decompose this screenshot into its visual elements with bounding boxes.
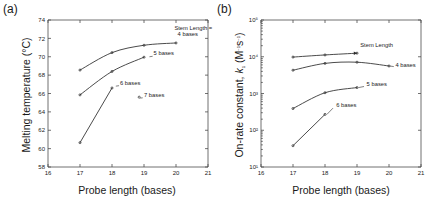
panel-a-y-axis-title: Melting temperature (°C) (20, 37, 32, 152)
y-tick-label: 72 (38, 36, 45, 42)
annotation-label: 7 bases (144, 92, 164, 98)
y-tick-label: 10³ (249, 91, 258, 97)
y-tick-label: 64 (38, 109, 45, 115)
annotation-label: 6 bases (336, 102, 356, 108)
panel-a-plot: 161718192021586062646668707274 Stem Leng… (0, 0, 215, 200)
leader-b-5-bases (359, 87, 364, 88)
annotation-label: 5 bases (154, 50, 174, 56)
series-curve-6-bases (80, 88, 112, 143)
annotation-label: 6 bases (120, 80, 140, 86)
panel-a-annotations: Stem Length =4 bases5 bases6 bases7 base… (116, 25, 213, 98)
plot-frame (261, 20, 421, 167)
x-tick-label: 19 (141, 170, 148, 176)
y-tick-label: 10⁵ (249, 17, 259, 23)
panel-b-annotations: Stem Length4 bases5 bases6 bases (327, 42, 416, 115)
series-curve-4-bases (80, 43, 176, 70)
x-tick-label: 19 (354, 170, 361, 176)
panel-a: (a) 161718192021586062646668707274 Stem … (0, 0, 215, 200)
x-tick-label: 17 (290, 170, 297, 176)
leader-b-6-bases (327, 108, 333, 114)
figure-root: (a) 161718192021586062646668707274 Stem … (0, 0, 429, 200)
x-tick-label: 20 (173, 170, 180, 176)
x-tick-label: 16 (258, 170, 265, 176)
y-tick-label: 68 (38, 72, 45, 78)
x-tick-label: 21 (205, 170, 212, 176)
panel-b-x-axis-title: Probe length (bases) (292, 184, 389, 196)
series-curve-4-bases (293, 62, 389, 70)
annotation-label: Stem Length (360, 42, 393, 48)
y-tick-label: 58 (38, 164, 45, 170)
panel-a-axes: 161718192021586062646668707274 (38, 17, 212, 176)
y-tick-label: 60 (38, 146, 45, 152)
x-tick-label: 17 (77, 170, 84, 176)
y-tick-label: 10² (249, 127, 258, 133)
plot-frame (48, 20, 208, 167)
x-tick-label: 16 (45, 170, 52, 176)
panel-b-plot: 16171819202110¹10²10³10⁴10⁵ Stem Length4… (214, 0, 429, 200)
panel-b-curves (292, 52, 390, 147)
series-curve-6-bases (293, 114, 325, 145)
x-tick-label: 18 (109, 170, 116, 176)
b-ylabel-main: On-rate constant, (233, 74, 245, 158)
b-ylabel-end: ) (233, 32, 245, 36)
panel-a-x-axis-title: Probe length (bases) (78, 184, 175, 196)
y-tick-label: 62 (38, 127, 45, 133)
x-tick-label: 21 (418, 170, 425, 176)
annotation-label: 4 bases (178, 31, 198, 37)
x-tick-label: 20 (386, 170, 393, 176)
b-ylabel-units: (M (233, 51, 245, 66)
y-tick-label: 10¹ (249, 164, 258, 170)
panel-b-axes: 16171819202110¹10²10³10⁴10⁵ (249, 17, 425, 176)
y-tick-label: 10⁴ (249, 54, 259, 60)
data-point (138, 96, 140, 98)
annotation-label: 4 bases (395, 62, 415, 68)
panel-b: (b) 16171819202110¹10²10³10⁴10⁵ Stem Len… (214, 0, 429, 200)
y-tick-label: 74 (38, 17, 45, 23)
x-tick-label: 18 (322, 170, 329, 176)
panel-b-y-axis-title: On-rate constant, k1 (M−1s−1) (233, 32, 246, 157)
y-tick-label: 66 (38, 91, 45, 97)
annotation-label: 5 bases (367, 81, 387, 87)
y-tick-label: 70 (38, 54, 45, 60)
